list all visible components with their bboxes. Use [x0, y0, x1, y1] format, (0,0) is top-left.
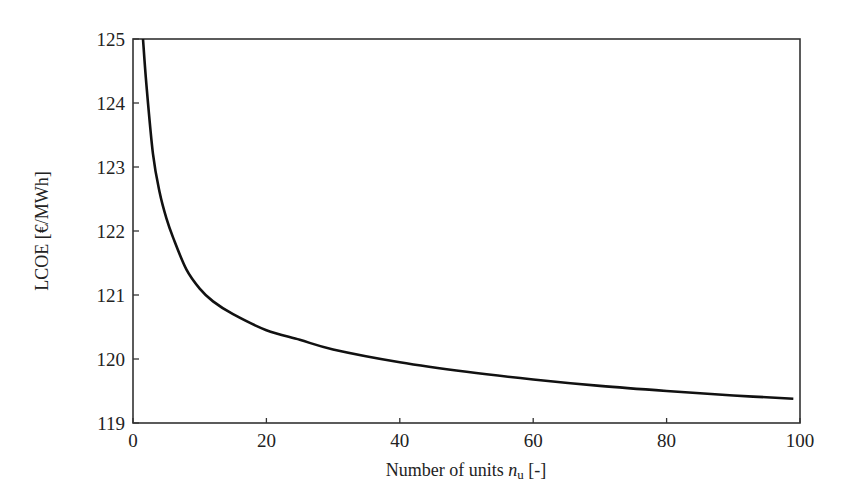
y-tick-label: 125: [97, 29, 126, 50]
y-tick-label: 122: [97, 221, 126, 242]
y-tick-label: 124: [97, 93, 126, 114]
chart: 020406080100 119120121122123124125 Numbe…: [0, 0, 843, 504]
plot-frame: [133, 39, 800, 423]
x-tick-label: 60: [524, 430, 543, 451]
y-tick-label: 123: [97, 157, 126, 178]
y-tick-label: 120: [97, 349, 126, 370]
x-tick-label: 20: [257, 430, 276, 451]
y-axis-label: LCOE [€/MWh]: [32, 171, 52, 290]
x-tick-label: 100: [786, 430, 815, 451]
x-axis-label: Number of units nu [-]: [386, 460, 546, 482]
y-tick-label: 119: [97, 413, 125, 434]
lcoe-curve: [143, 39, 793, 399]
y-tick-label: 121: [97, 285, 126, 306]
x-tick-label: 80: [657, 430, 676, 451]
x-tick-label: 40: [390, 430, 409, 451]
plot-area: [133, 39, 800, 423]
x-tick-label: 0: [128, 430, 138, 451]
